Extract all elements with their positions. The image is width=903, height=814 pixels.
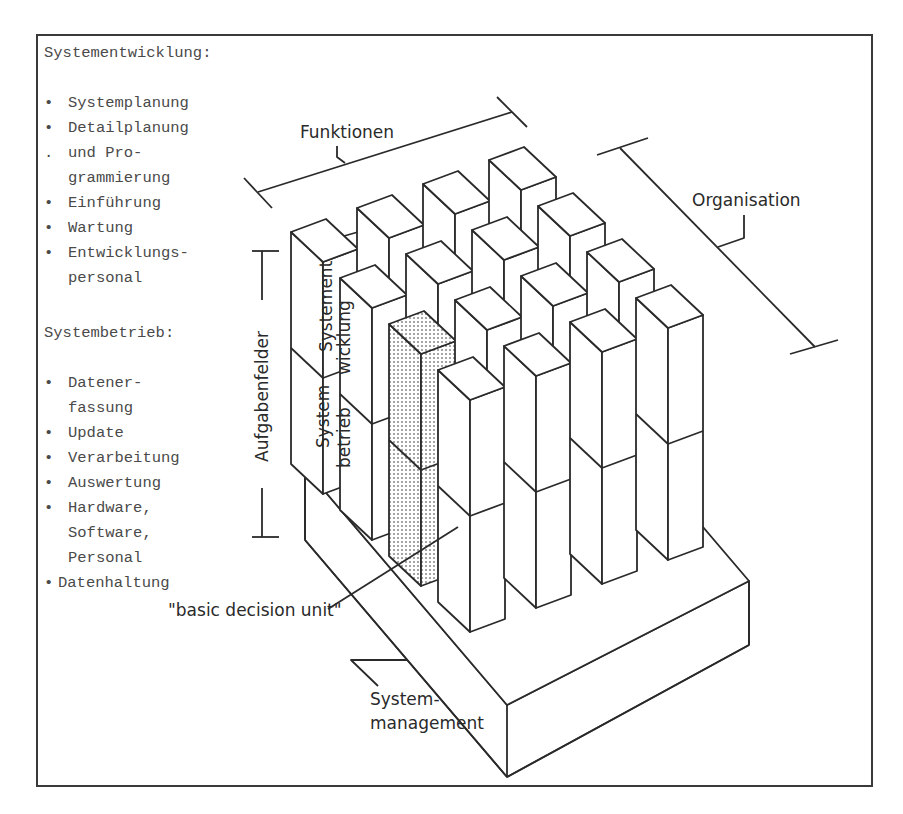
cube-diagram xyxy=(0,0,903,814)
systementwicklung-label-2: wicklung xyxy=(334,300,354,375)
systemmanagement-label-2: management xyxy=(370,713,484,733)
systemmanagement-leader xyxy=(351,660,407,686)
systemmanagement-label-1: System- xyxy=(370,689,440,709)
basic-decision-unit-label: "basic decision unit" xyxy=(168,600,342,620)
aufgabenfelder-label: Aufgabenfelder xyxy=(252,331,272,462)
funktionen-dimension-line xyxy=(244,97,527,208)
funktionen-label: Funktionen xyxy=(300,122,394,142)
systembetrieb-label-1: System xyxy=(313,385,333,448)
systembetrieb-label-2: betrieb xyxy=(334,407,354,468)
organisation-label: Organisation xyxy=(692,190,801,210)
systementwicklung-label-1: Systement xyxy=(316,261,336,352)
